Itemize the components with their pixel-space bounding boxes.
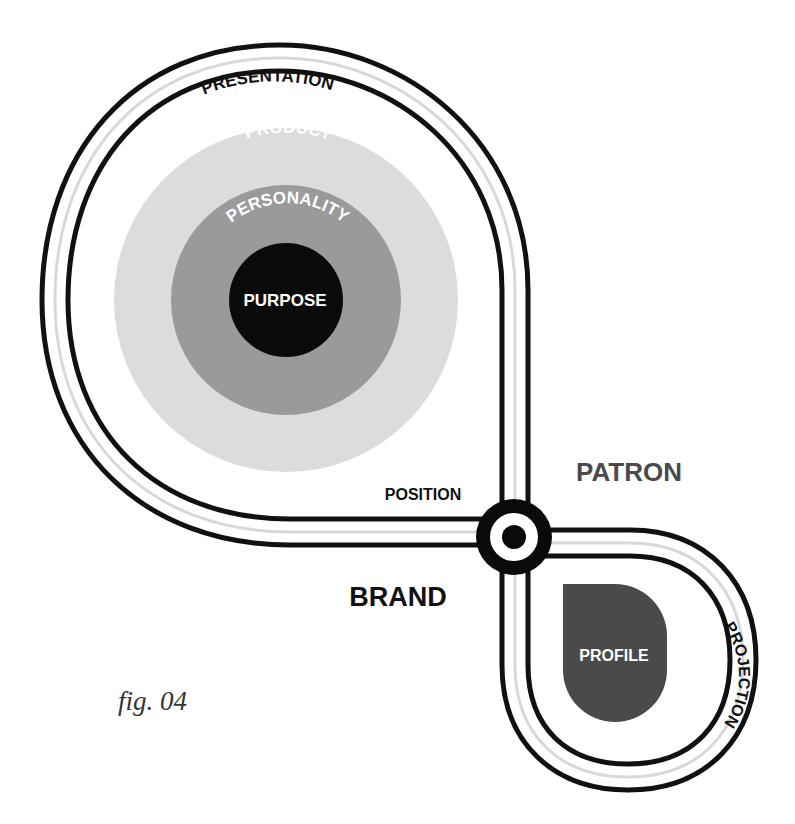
purpose-label: PURPOSE <box>243 291 326 310</box>
patron-label: PATRON <box>576 457 682 487</box>
profile-label: PROFILE <box>579 647 649 664</box>
figure-caption: fig. 04 <box>118 686 187 717</box>
position-label: POSITION <box>385 486 461 503</box>
brand-label: BRAND <box>349 582 447 612</box>
position-hub-icon <box>476 499 552 575</box>
